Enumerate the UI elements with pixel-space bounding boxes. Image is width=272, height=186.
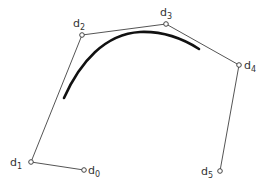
- label-d3: d3: [160, 6, 172, 21]
- control-point-d3: [164, 22, 169, 27]
- control-point-d1: [29, 160, 34, 165]
- control-polygon: [31, 24, 239, 171]
- control-point-d5: [218, 169, 223, 174]
- diagram-canvas: d0d1d2d3d4d5: [0, 0, 272, 186]
- control-points: [29, 22, 242, 174]
- control-point-d2: [80, 33, 85, 38]
- label-d5: d5: [201, 165, 213, 180]
- label-d4: d4: [244, 59, 256, 74]
- spline-curve: [64, 32, 199, 98]
- label-d0: d0: [88, 164, 100, 179]
- control-point-d4: [237, 63, 242, 68]
- label-d1: d1: [10, 156, 22, 171]
- control-point-d0: [82, 168, 87, 173]
- label-d2: d2: [73, 17, 85, 32]
